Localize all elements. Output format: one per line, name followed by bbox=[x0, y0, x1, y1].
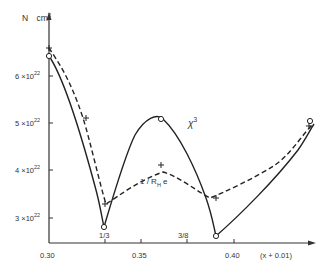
y-tick-label-6e22: 6 ×1022 bbox=[15, 70, 40, 81]
plus-marker-icon bbox=[102, 201, 108, 207]
series-rhe-line bbox=[49, 48, 313, 204]
circle-marker-icon bbox=[46, 53, 51, 58]
chart: N cm3 6 ×1022 5 ×1022 4 ×1022 3 ×1022 0.… bbox=[0, 0, 328, 269]
series-label-rhe: 1 / RHe bbox=[140, 177, 168, 188]
x-tick-label-040: 0.40 bbox=[225, 251, 240, 260]
x-tick-label-035: 0.35 bbox=[132, 251, 147, 260]
circle-marker-icon bbox=[213, 233, 218, 238]
circle-marker-icon bbox=[307, 118, 312, 123]
circle-marker-icon bbox=[101, 224, 106, 229]
axes bbox=[49, 16, 312, 243]
y-axis-unit-label: N cm3 bbox=[22, 12, 52, 23]
x-axis-arrow-icon bbox=[308, 241, 316, 246]
series-chi3-line bbox=[49, 56, 314, 236]
annotation-3-8: 3/8 bbox=[178, 231, 188, 240]
x-axis-label: (x + 0.01) bbox=[260, 251, 292, 260]
series-label-chi3: χ3 bbox=[187, 116, 197, 129]
series-rhe-markers bbox=[46, 45, 312, 207]
y-tick-label-3e22: 3 ×1022 bbox=[15, 212, 40, 223]
circle-marker-icon bbox=[158, 116, 163, 121]
y-tick-label-5e22: 5 ×1022 bbox=[15, 117, 40, 128]
plus-marker-icon bbox=[158, 162, 164, 168]
y-tick-label-4e22: 4 ×1022 bbox=[15, 164, 40, 175]
series-chi3-markers bbox=[46, 53, 312, 238]
annotation-1-3: 1/3 bbox=[99, 231, 109, 240]
x-tick-label-030: 0.30 bbox=[40, 251, 55, 260]
